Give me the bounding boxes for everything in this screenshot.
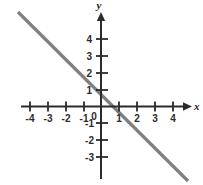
y-axis-label: y xyxy=(95,0,102,11)
x-axis-arrowhead xyxy=(183,102,192,110)
y-tick-label--1: -1 xyxy=(85,118,94,129)
y-axis-tick-labels-positive: 4 3 2 1 xyxy=(86,34,92,96)
x-axis-label: x xyxy=(193,100,200,112)
y-tick-label-1: 1 xyxy=(86,85,92,96)
x-tick-label--2: -2 xyxy=(62,113,71,124)
x-tick-label--3: -3 xyxy=(44,113,53,124)
y-tick-label-4: 4 xyxy=(86,34,92,45)
x-tick-label-2: 2 xyxy=(134,113,140,124)
x-tick-label-1: 1 xyxy=(116,113,122,124)
x-axis-group xyxy=(21,102,192,110)
y-tick-label--2: -2 xyxy=(85,135,94,146)
y-axis-arrowhead xyxy=(97,12,105,21)
y-tick-label--3: -3 xyxy=(85,152,94,163)
x-tick-label-3: 3 xyxy=(152,113,158,124)
x-tick-label--4: -4 xyxy=(26,113,35,124)
y-tick-label-2: 2 xyxy=(86,68,92,79)
x-tick-label-4: 4 xyxy=(170,113,176,124)
y-axis-tick-labels-negative: -1 -2 -3 xyxy=(85,118,94,163)
line-y-equals-minus-x-plus-1 xyxy=(18,12,188,181)
graph-canvas: -4 -3 -2 -1 1 2 3 4 0 4 3 2 1 -1 -2 -3 y xyxy=(0,0,203,185)
x-axis-tick-labels-negative: -4 -3 -2 -1 xyxy=(26,113,89,124)
coordinate-graph-figure: -4 -3 -2 -1 1 2 3 4 0 4 3 2 1 -1 -2 -3 y xyxy=(0,0,203,185)
plotted-line-group xyxy=(18,12,188,181)
y-tick-label-3: 3 xyxy=(86,51,92,62)
